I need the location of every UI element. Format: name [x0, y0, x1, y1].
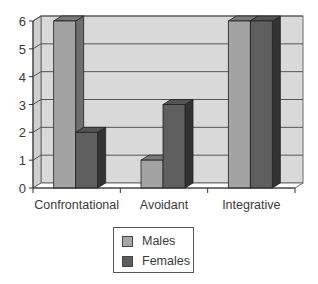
legend-label-males: Males — [142, 234, 175, 248]
y-tick-label: 5 — [19, 42, 26, 57]
x-category-label: Integrative — [222, 198, 280, 212]
legend-label-females: Females — [142, 254, 190, 268]
legend: Males Females — [113, 227, 194, 273]
y-tick-label: 3 — [19, 98, 26, 113]
bar-females-avoidant — [163, 100, 193, 189]
legend-item-males: Males — [122, 233, 175, 249]
bar-females-integrative — [250, 16, 280, 188]
y-tick-label: 0 — [19, 181, 26, 196]
legend-swatch-males — [122, 236, 133, 247]
y-tick-label: 2 — [19, 125, 26, 140]
legend-swatch-females — [122, 256, 133, 267]
x-category-label: Confrontational — [34, 198, 119, 212]
legend-item-females: Females — [122, 253, 190, 269]
x-axis-categories: ConfrontationalAvoidantIntegrative — [34, 198, 280, 212]
x-category-label: Avoidant — [140, 198, 189, 212]
y-tick-label: 1 — [19, 153, 26, 168]
y-axis-ticks: 0123456 — [19, 14, 33, 196]
bar-females-confrontational — [76, 127, 106, 188]
y-tick-label: 4 — [19, 70, 26, 85]
y-tick-label: 6 — [19, 14, 26, 29]
